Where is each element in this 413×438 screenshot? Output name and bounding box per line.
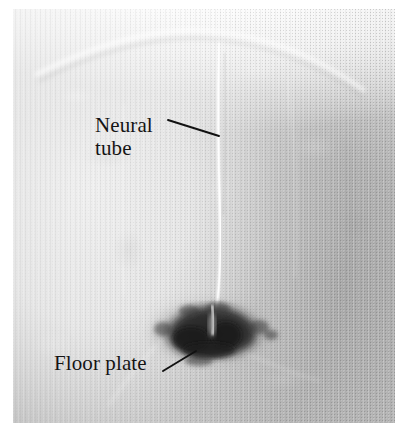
dorsal-surface-arc: [35, 30, 365, 97]
label-neural-tube-line1: Neural: [95, 113, 153, 137]
label-neural-tube: Neuraltube: [95, 114, 153, 160]
figure-root: Neuraltube Floor plate: [0, 0, 413, 438]
label-floor-plate: Floor plate: [54, 352, 147, 375]
neural-tube-lumen: [216, 40, 226, 312]
label-floor-plate-line1: Floor plate: [54, 351, 147, 375]
floor-plate-stain: [148, 300, 278, 366]
label-neural-tube-line2: tube: [95, 136, 132, 160]
